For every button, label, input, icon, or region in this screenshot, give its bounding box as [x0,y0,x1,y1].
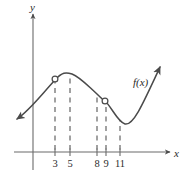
dashed-guide-lines [55,76,120,150]
y-axis-label: y [29,1,35,13]
graph-canvas: y x f(x) 3 5 8 9 11 [0,0,186,185]
x-tick-label-9: 9 [103,158,108,169]
x-tick-label-5: 5 [67,158,72,169]
open-point-x3 [52,76,58,82]
x-tick-label-11: 11 [115,158,125,169]
x-tick-label-3: 3 [52,158,57,169]
open-point-x9 [102,98,108,104]
function-label: f(x) [133,76,149,89]
function-graph-figure: y x f(x) 3 5 8 9 11 [0,0,186,185]
x-axis-label: x [173,147,179,159]
x-tick-label-8: 8 [94,158,99,169]
